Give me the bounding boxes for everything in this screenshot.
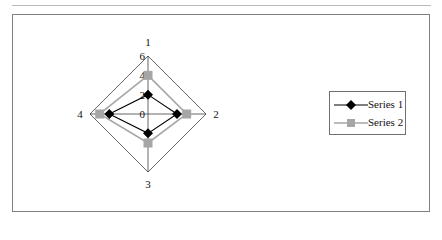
diamond-marker-icon bbox=[334, 97, 370, 113]
diamond-marker-icon bbox=[143, 128, 153, 138]
square-marker-icon bbox=[334, 115, 370, 131]
category-label: 4 bbox=[77, 108, 83, 120]
radial-tick-label: 6 bbox=[140, 50, 146, 62]
legend-label: Series 1 bbox=[368, 98, 403, 110]
square-marker-icon bbox=[144, 71, 153, 80]
diamond-marker-icon bbox=[172, 109, 182, 119]
category-label: 3 bbox=[145, 178, 151, 190]
square-marker-icon bbox=[144, 139, 153, 148]
legend-label: Series 2 bbox=[368, 116, 403, 128]
category-label: 2 bbox=[213, 108, 219, 120]
legend: Series 1 Series 2 bbox=[329, 91, 406, 135]
square-marker-icon bbox=[182, 110, 191, 119]
category-label: 1 bbox=[145, 36, 151, 48]
legend-item-series-2: Series 2 bbox=[330, 115, 405, 131]
legend-item-series-1: Series 1 bbox=[330, 97, 405, 113]
radial-tick-label: 0 bbox=[140, 108, 146, 120]
square-marker-icon bbox=[95, 110, 104, 119]
